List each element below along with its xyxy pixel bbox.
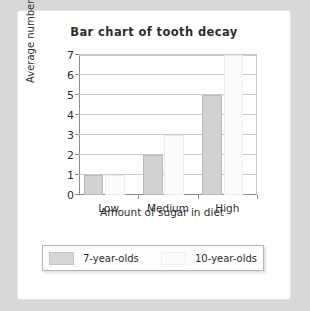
y-tick-label: 3 bbox=[60, 129, 74, 142]
axes: 01234567 LowMediumHigh bbox=[79, 55, 257, 195]
legend-label: 7-year-olds bbox=[83, 253, 139, 264]
chart-title: Bar chart of tooth decay bbox=[18, 25, 290, 39]
y-tick-label: 4 bbox=[60, 109, 74, 122]
x-tick-mark bbox=[198, 195, 199, 199]
y-tick-label: 0 bbox=[60, 189, 74, 202]
legend-label: 10-year-olds bbox=[195, 253, 257, 264]
legend-item: 7-year-olds bbox=[49, 246, 139, 270]
y-tick-label: 1 bbox=[60, 169, 74, 182]
chart-page: Bar chart of tooth decay Average number … bbox=[0, 0, 310, 311]
y-tick-label: 6 bbox=[60, 69, 74, 82]
y-tick-label: 5 bbox=[60, 89, 74, 102]
chart-card: Bar chart of tooth decay Average number … bbox=[17, 10, 291, 300]
x-axis-label: Amount of sugar in diet bbox=[59, 206, 265, 218]
x-tick-mark bbox=[138, 195, 139, 199]
y-axis-label: Average number of fillings bbox=[25, 0, 36, 83]
plot-area: Average number of fillings 01234567 LowM… bbox=[59, 43, 265, 223]
white-swatch-icon bbox=[161, 252, 186, 265]
y-tick-label: 7 bbox=[60, 49, 74, 62]
y-tick-label: 2 bbox=[60, 149, 74, 162]
x-tick-mark bbox=[257, 195, 258, 199]
legend-item: 10-year-olds bbox=[161, 246, 257, 270]
x-axis-ticks: LowMediumHigh bbox=[79, 55, 257, 195]
chart-legend: 7-year-olds10-year-olds bbox=[42, 245, 264, 271]
gray-swatch-icon bbox=[49, 252, 74, 265]
